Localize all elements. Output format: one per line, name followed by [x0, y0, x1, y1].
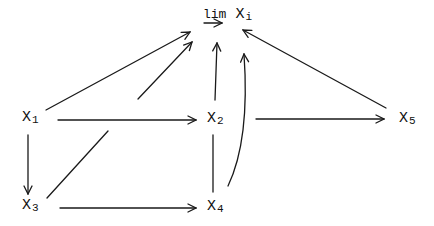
node-x4-subscript: 4 — [217, 203, 224, 215]
edge-x1-lim — [46, 32, 190, 110]
node-x1-subscript: 1 — [32, 114, 39, 126]
node-x4-name: X — [207, 198, 216, 215]
lim-operator: lim — [203, 7, 226, 22]
node-x1-name: X — [22, 109, 31, 126]
node-x3-subscript: 3 — [32, 202, 39, 214]
node-x2-name: X — [207, 110, 216, 127]
node-x5-name: X — [399, 110, 408, 127]
node-x1: X1 — [22, 110, 39, 125]
edge-x3-lim-upper — [138, 42, 192, 99]
node-x2: X2 — [207, 111, 224, 126]
node-x5-subscript: 5 — [409, 115, 416, 127]
limit-label: lim Xi — [203, 7, 252, 22]
node-x4: X4 — [207, 199, 224, 214]
node-x3: X3 — [22, 198, 39, 213]
edge-x2-lim — [215, 43, 217, 100]
edge-x5-lim — [243, 30, 386, 108]
node-x2-subscript: 2 — [217, 115, 224, 127]
edge-x3-lim-lower — [47, 131, 108, 198]
node-x3-name: X — [22, 197, 31, 214]
lim-variable: X — [235, 6, 244, 23]
lim-subscript: i — [245, 11, 252, 23]
commutative-diagram: lim Xi X1 X2 X3 X4 X5 — [0, 0, 434, 226]
edge-x4-lim — [228, 54, 245, 186]
node-x5: X5 — [399, 111, 416, 126]
